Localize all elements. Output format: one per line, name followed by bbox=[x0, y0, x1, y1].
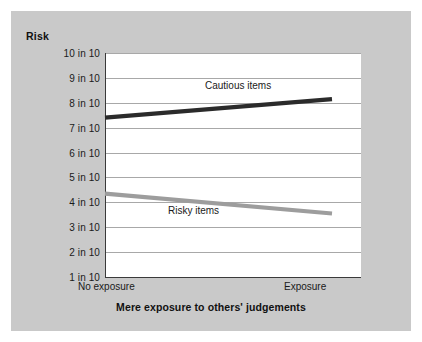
y-tick-label: 4 in 10 bbox=[69, 197, 100, 208]
x-tick-label-exposure: Exposure bbox=[284, 281, 326, 292]
y-tick-label: 6 in 10 bbox=[69, 147, 100, 158]
gridline bbox=[106, 53, 361, 54]
series-annotation-cautious-items: Cautious items bbox=[205, 80, 271, 91]
y-tick-label: 2 in 10 bbox=[69, 247, 100, 258]
gridline bbox=[106, 202, 361, 203]
gridline bbox=[106, 227, 361, 228]
y-tick-label: 8 in 10 bbox=[69, 97, 100, 108]
y-tick-label: 7 in 10 bbox=[69, 122, 100, 133]
gridline bbox=[106, 177, 361, 178]
y-axis-tick-labels: 10 in 10 9 in 10 8 in 10 7 in 10 6 in 10… bbox=[28, 53, 100, 277]
chart-figure: Risk 10 in 10 9 in 10 8 in 10 7 in 10 6 … bbox=[0, 0, 422, 342]
x-axis-title: Mere exposure to others' judgements bbox=[0, 301, 422, 313]
y-axis-title: Risk bbox=[26, 30, 49, 42]
gridline bbox=[106, 103, 361, 104]
gridline bbox=[106, 153, 361, 154]
y-tick-label: 3 in 10 bbox=[69, 222, 100, 233]
y-tick-label: 10 in 10 bbox=[64, 48, 100, 59]
y-tick-label: 5 in 10 bbox=[69, 172, 100, 183]
y-tick-label: 9 in 10 bbox=[69, 72, 100, 83]
gridline bbox=[106, 252, 361, 253]
series-annotation-risky-items: Risky items bbox=[168, 205, 219, 216]
gridline bbox=[106, 78, 361, 79]
gridline bbox=[106, 128, 361, 129]
x-tick-label-no-exposure: No exposure bbox=[78, 281, 135, 292]
